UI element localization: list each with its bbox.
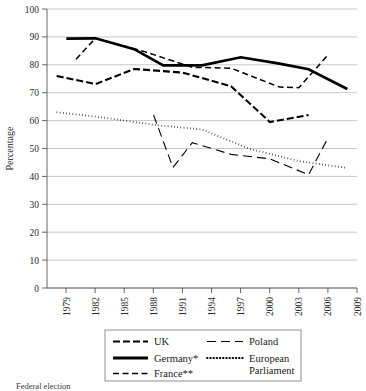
y-axis-title: Percentage: [4, 126, 15, 170]
x-tick-label: 1979: [62, 297, 72, 316]
legend-label-uk: UK: [154, 336, 170, 347]
y-tick-label: 30: [30, 200, 40, 210]
legend-label-parliament: Parliament: [249, 365, 295, 376]
turnout-line-chart: 100 90 80 70 60 50 40 30 20 10 0 Percent…: [0, 0, 366, 391]
legend-label-germany: Germany*: [154, 353, 198, 364]
y-axis: [42, 9, 47, 288]
y-tick-label: 100: [25, 5, 40, 15]
y-tick-label: 50: [30, 144, 40, 154]
chart-svg: 100 90 80 70 60 50 40 30 20 10 0 Percent…: [0, 0, 366, 391]
y-gridlines: [47, 9, 357, 288]
y-tick-label: 80: [30, 60, 40, 70]
y-tick-label: 90: [30, 32, 40, 42]
y-tick-label: 40: [30, 172, 40, 182]
x-tick-labels: 1979 1982 1985 1988 1991 1994 1997 2000 …: [62, 297, 363, 316]
x-tick-label: 1997: [236, 297, 246, 316]
x-tick-label: 2003: [294, 297, 304, 316]
x-tick-label: 1985: [120, 297, 130, 316]
legend: UK Poland Germany* European Parliament F…: [105, 330, 301, 381]
y-tick-labels: 100 90 80 70 60 50 40 30 20 10 0: [25, 5, 40, 294]
x-tick-label: 2009: [353, 297, 363, 316]
y-tick-label: 10: [30, 256, 40, 266]
chart-footnote: Federal election: [16, 381, 71, 391]
y-tick-label: 60: [30, 116, 40, 126]
x-tick-label: 1994: [207, 297, 217, 316]
series-layer: [57, 38, 348, 174]
legend-label-france: France**: [154, 368, 193, 379]
x-tick-label: 2006: [323, 297, 333, 316]
series-poland: [154, 115, 328, 175]
series-uk: [57, 69, 309, 122]
y-tick-label: 70: [30, 88, 40, 98]
x-tick-label: 2000: [265, 297, 275, 316]
series-france: [76, 38, 328, 87]
x-tick-label: 1988: [149, 297, 159, 316]
legend-label-poland: Poland: [249, 336, 279, 347]
legend-label-european: European: [249, 353, 290, 364]
x-tick-label: 1991: [178, 297, 188, 316]
x-axis: [47, 288, 357, 293]
y-tick-label: 0: [34, 284, 39, 294]
y-tick-label: 20: [30, 228, 40, 238]
x-tick-label: 1982: [91, 297, 101, 316]
